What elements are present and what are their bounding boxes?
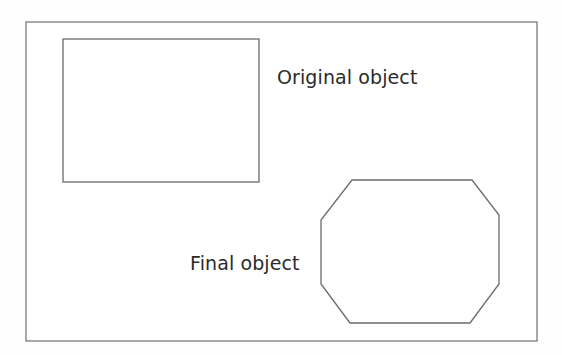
final-object-label: Final object bbox=[190, 253, 300, 273]
diagram-canvas bbox=[0, 0, 562, 355]
final-object-octagon bbox=[321, 180, 499, 323]
figure-container: Original object Final object bbox=[0, 0, 562, 355]
original-object-rectangle bbox=[63, 39, 259, 182]
original-object-label: Original object bbox=[277, 67, 417, 87]
